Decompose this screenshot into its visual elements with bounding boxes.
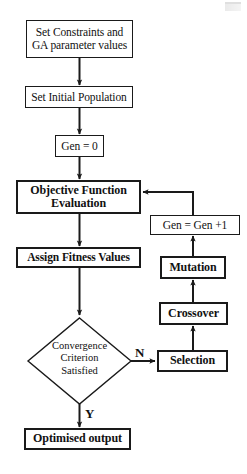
node-objective-function-label: Objective Function Evaluation — [18, 184, 139, 211]
node-assign-fitness[interactable]: Assign Fitness Values — [16, 247, 141, 268]
node-assign-fitness-label: Assign Fitness Values — [18, 251, 139, 264]
edge-label-yes: Y — [85, 406, 94, 422]
node-mutation[interactable]: Mutation — [160, 256, 226, 279]
node-gen-increment-label: Gen = Gen +1 — [151, 219, 239, 232]
node-crossover[interactable]: Crossover — [159, 302, 228, 325]
node-selection[interactable]: Selection — [157, 350, 228, 372]
node-set-constraints-label: Set Constraints and GA parameter values — [27, 26, 132, 52]
node-gen-increment[interactable]: Gen = Gen +1 — [150, 215, 240, 235]
node-objective-function[interactable]: Objective Function Evaluation — [16, 180, 141, 214]
flowchart-canvas: Set Constraints and GA parameter values … — [0, 0, 247, 474]
node-selection-label: Selection — [159, 354, 226, 367]
convergence-diamond-shape — [28, 318, 131, 404]
node-set-initial-population-label: Set Initial Population — [26, 91, 132, 104]
scan-artifact — [225, 2, 241, 11]
node-gen-zero[interactable]: Gen = 0 — [55, 135, 104, 157]
node-optimised-output[interactable]: Optimised output — [24, 428, 131, 450]
node-crossover-label: Crossover — [161, 307, 226, 320]
edge-label-no: N — [135, 345, 144, 361]
node-optimised-output-label: Optimised output — [26, 432, 129, 445]
node-set-constraints[interactable]: Set Constraints and GA parameter values — [26, 20, 133, 58]
flowchart-connectors — [0, 0, 247, 474]
node-mutation-label: Mutation — [162, 261, 224, 274]
node-set-initial-population[interactable]: Set Initial Population — [25, 86, 133, 108]
node-gen-zero-label: Gen = 0 — [56, 140, 103, 153]
connector-gen-increment-to-objective — [143, 192, 193, 215]
